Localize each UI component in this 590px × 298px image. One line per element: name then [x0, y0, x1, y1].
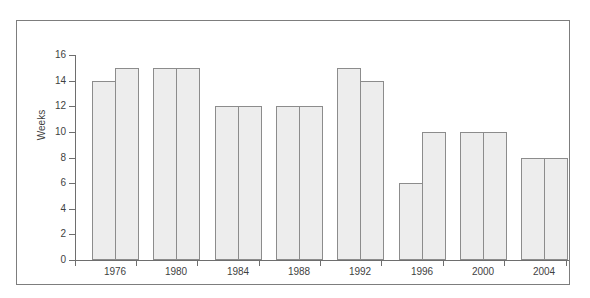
x-label-2004: 2004 [521, 265, 567, 278]
bar-democrat[interactable] [360, 81, 384, 260]
bar-republican[interactable] [460, 132, 484, 260]
figure-frame: Weeks 0 2 4 6 8 [16, 20, 570, 285]
bar-group [399, 55, 445, 260]
y-axis-title: Weeks [36, 110, 47, 140]
bar-democrat[interactable] [115, 68, 139, 260]
bar-group [276, 55, 322, 260]
bar-republican[interactable] [92, 81, 116, 260]
bar-group [337, 55, 383, 260]
x-label-1984: 1984 [215, 265, 261, 278]
bar-republican[interactable] [153, 68, 177, 260]
bar-republican[interactable] [337, 68, 361, 260]
bar-democrat[interactable] [483, 132, 507, 260]
x-label-2000: 2000 [460, 265, 506, 278]
plot-area: 0 2 4 6 8 10 1 [75, 55, 569, 260]
bar-republican[interactable] [215, 106, 239, 260]
bar-republican[interactable] [399, 183, 423, 260]
bar-democrat[interactable] [544, 158, 568, 261]
x-label-1988: 1988 [276, 265, 322, 278]
bar-republican[interactable] [276, 106, 300, 260]
x-axis-line [75, 260, 569, 261]
bar-republican[interactable] [521, 158, 545, 261]
x-label-1996: 1996 [399, 265, 445, 278]
chart-figure: Weeks 0 2 4 6 8 [0, 0, 590, 298]
x-label-1992: 1992 [337, 265, 383, 278]
x-label-1980: 1980 [153, 265, 199, 278]
bar-democrat[interactable] [176, 68, 200, 260]
bar-group [153, 55, 199, 260]
bar-group [460, 55, 506, 260]
bar-group [521, 55, 567, 260]
bar-democrat[interactable] [299, 106, 323, 260]
x-tick [75, 260, 76, 266]
bar-democrat[interactable] [238, 106, 262, 260]
bar-democrat[interactable] [422, 132, 446, 260]
y-axis-line [75, 55, 76, 260]
x-label-1976: 1976 [92, 265, 138, 278]
bar-group [92, 55, 138, 260]
bar-group [215, 55, 261, 260]
